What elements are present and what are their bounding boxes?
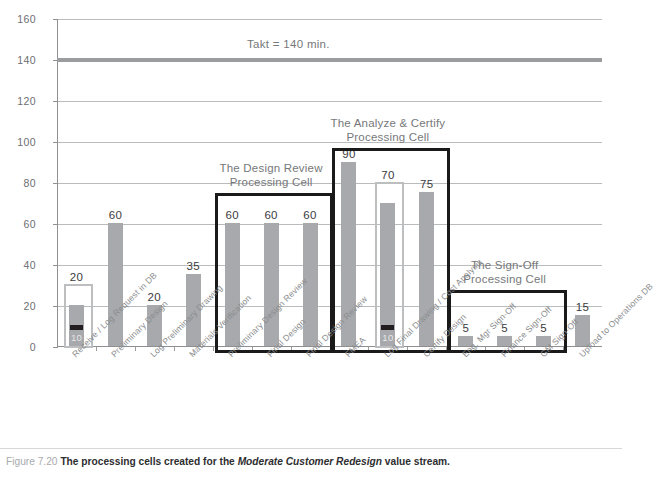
y-axis-tick-label: 20 (0, 300, 36, 312)
y-axis-tick-mark (53, 347, 58, 348)
bar-value-label: 90 (329, 148, 369, 160)
bar-inner-band (381, 325, 394, 330)
x-axis-tick-mark (174, 347, 175, 351)
processing-cell-title-line2: Processing Cell (346, 131, 429, 143)
caption-text-after: value stream. (385, 456, 450, 467)
x-axis-tick-mark (291, 347, 292, 351)
y-axis-tick-label: 160 (0, 13, 36, 25)
figure-number: Figure 7.20 (6, 456, 58, 467)
caption-emphasis: Moderate Customer Redesign (238, 456, 382, 467)
x-axis-tick-mark (524, 347, 525, 351)
bar[interactable] (225, 223, 240, 346)
bar-value-label: 60 (95, 209, 135, 221)
bar-value-label: 15 (563, 301, 603, 313)
bar-value-label: 70 (368, 169, 408, 181)
y-axis-tick-label: 140 (0, 54, 36, 66)
x-axis-tick-mark (407, 347, 408, 351)
processing-cell-title-line1: The Design Review (220, 162, 323, 174)
processing-cell-title: The Sign-OffProcessing Cell (408, 258, 601, 286)
y-axis-tick-label: 120 (0, 95, 36, 107)
y-axis-tick-label: 0 (0, 341, 36, 353)
takt-reference-label: Takt = 140 min. (247, 38, 330, 50)
gridline (57, 19, 602, 20)
bar[interactable] (108, 223, 123, 346)
x-axis-tick-mark (213, 347, 214, 351)
gridline (57, 101, 602, 102)
bar-value-label: 60 (212, 209, 252, 221)
y-axis-tick-label: 80 (0, 177, 36, 189)
processing-cell-title-line2: Processing Cell (230, 176, 313, 188)
y-axis-tick-label: 60 (0, 218, 36, 230)
processing-cell-title: The Design ReviewProcessing Cell (175, 161, 368, 189)
figure-caption: Figure 7.20 The processing cells created… (6, 456, 450, 467)
x-axis-tick-mark (485, 347, 486, 351)
x-axis-tick-mark (135, 347, 136, 351)
bar-inner-band (70, 325, 83, 330)
highlighted-bar-outline (375, 182, 404, 349)
x-axis-tick-mark (563, 347, 564, 351)
processing-cell-title-line1: The Analyze & Certify (331, 117, 446, 129)
x-axis-tick-mark (96, 347, 97, 351)
processing-cell-title-line2: Processing Cell (463, 273, 546, 285)
x-axis-tick-mark (330, 347, 331, 351)
gridline (57, 224, 602, 225)
y-axis (57, 19, 58, 347)
x-axis-tick-mark (368, 347, 369, 351)
processing-cell-title: The Analyze & CertifyProcessing Cell (292, 116, 485, 144)
takt-reference-line (57, 58, 602, 62)
x-axis-tick-mark (252, 347, 253, 351)
x-axis-tick-mark (446, 347, 447, 351)
caption-divider (0, 448, 622, 449)
gridline (57, 306, 602, 307)
bar-chart-plot-area: 020406080100120140160Takt = 140 min.2010… (57, 19, 602, 347)
y-axis-tick-label: 100 (0, 136, 36, 148)
bar-value-label: 35 (173, 260, 213, 272)
bar-value-label: 60 (290, 209, 330, 221)
bar-value-label: 75 (407, 178, 447, 190)
caption-text-before: The processing cells created for the (60, 456, 234, 467)
bar[interactable] (264, 223, 279, 346)
y-axis-tick-label: 40 (0, 259, 36, 271)
bar-value-label: 60 (251, 209, 291, 221)
bar-value-label: 20 (56, 271, 96, 283)
